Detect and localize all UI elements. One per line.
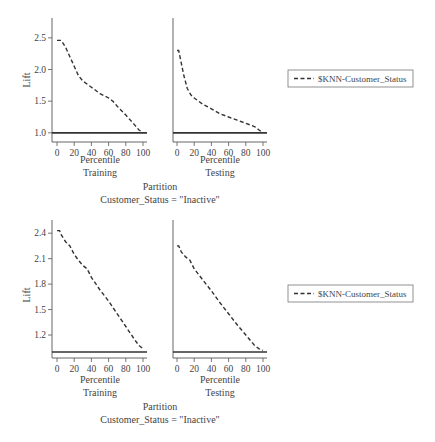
y-axis-label: Lift [21, 72, 32, 87]
x-tick-label: 20 [69, 148, 79, 158]
panel-name-training: Training [83, 387, 117, 398]
lift-chart-svg-2: 0204060801001.21.51.82.12.4 020406080100… [0, 220, 435, 442]
panel-x-label: Percentile [200, 154, 241, 165]
partition-label: Partition [143, 401, 177, 412]
x-tick-label: 60 [104, 364, 114, 374]
x-tick-label: 0 [55, 364, 60, 374]
x-tick-label: 100 [256, 148, 271, 158]
panel-training-1: 0204060801001.01.52.02.5 [34, 18, 150, 158]
lift-series-line [57, 40, 143, 132]
x-tick-label: 0 [55, 148, 60, 158]
y-tick-label: 2.1 [34, 254, 46, 264]
y-tick-label: 1.0 [34, 128, 46, 138]
y-axis-label: Lift [21, 287, 32, 302]
panel-x-label: Percentile [80, 154, 121, 165]
y-tick-label: 2.4 [34, 228, 46, 238]
x-tick-label: 80 [241, 148, 251, 158]
panel-name-training: Training [83, 167, 117, 178]
y-tick-label: 1.5 [34, 96, 46, 106]
y-tick-label: 2.0 [34, 65, 46, 75]
x-tick-label: 20 [189, 364, 199, 374]
lift-chart-svg-1: 0204060801001.01.52.02.5 020406080100 Li… [0, 0, 435, 215]
panel-training-2: 0204060801001.21.51.82.12.4 [34, 220, 150, 374]
x-tick-label: 20 [69, 364, 79, 374]
panel-testing-1: 020406080100 [173, 18, 270, 158]
x-tick-label: 100 [136, 364, 151, 374]
legend-label: $KNN-Customer_Status [318, 74, 407, 84]
legend-label: $KNN-Customer_Status [318, 289, 407, 299]
panel-name-testing: Testing [205, 387, 234, 398]
panel-name-testing: Testing [205, 167, 234, 178]
x-tick-label: 100 [256, 364, 271, 374]
lift-series-line [177, 51, 263, 133]
x-tick-label: 60 [224, 364, 234, 374]
legend: $KNN-Customer_Status [288, 285, 413, 302]
x-tick-label: 0 [175, 364, 180, 374]
condition-label: Customer_Status = "Inactive" [100, 414, 219, 425]
x-tick-label: 40 [87, 364, 97, 374]
y-tick-label: 1.8 [34, 279, 46, 289]
y-tick-label: 1.2 [34, 330, 46, 340]
lift-chart-figure-2: 0204060801001.21.51.82.12.4 020406080100… [0, 220, 435, 442]
x-tick-label: 100 [136, 148, 151, 158]
panel-x-label: Percentile [80, 374, 121, 385]
x-tick-label: 0 [175, 148, 180, 158]
partition-label: Partition [143, 181, 177, 192]
x-tick-label: 20 [189, 148, 199, 158]
x-tick-label: 40 [207, 364, 217, 374]
y-tick-label: 1.5 [34, 305, 46, 315]
x-tick-label: 80 [121, 364, 131, 374]
lift-series-line [177, 246, 263, 350]
lift-series-line [57, 231, 143, 349]
x-tick-label: 80 [241, 364, 251, 374]
condition-label: Customer_Status = "Inactive" [100, 194, 219, 205]
x-tick-label: 80 [121, 148, 131, 158]
y-tick-label: 2.5 [34, 33, 46, 43]
lift-chart-figure-1: 0204060801001.01.52.02.5 020406080100 Li… [0, 0, 435, 215]
panel-testing-2: 020406080100 [173, 220, 270, 374]
legend: $KNN-Customer_Status [288, 70, 413, 87]
panel-x-label: Percentile [200, 374, 241, 385]
